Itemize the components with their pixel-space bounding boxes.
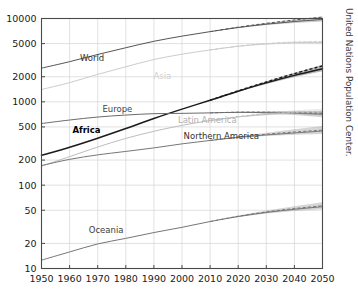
credit-label: United Nations Population Center. <box>344 8 354 157</box>
series-label-africa: Africa <box>72 125 100 135</box>
x-axis-tick-label: 2010 <box>198 273 222 284</box>
y-axis-tick-label: 200 <box>18 154 36 165</box>
series-label-northern-america: Northern America <box>184 131 260 141</box>
y-axis-tick-label: 2000 <box>12 71 36 82</box>
source-credit: United Nations Population Center. <box>344 8 354 157</box>
population-log-chart: 10000500020001000500200100502010 1950196… <box>0 0 358 304</box>
y-axis-tick-label: 20 <box>24 238 36 249</box>
x-axis-tick-label: 1980 <box>114 273 138 284</box>
series-label-europe: Europe <box>102 104 132 114</box>
y-axis-tick-label: 50 <box>24 205 36 216</box>
y-axis-tick-label: 1000 <box>12 96 36 107</box>
y-axis-tick-label: 100 <box>18 180 36 191</box>
x-axis-tick-label: 2020 <box>226 273 250 284</box>
x-axis-tick-label: 1960 <box>58 273 82 284</box>
x-axis-tick-label: 2040 <box>282 273 306 284</box>
series-label-latin-america: Latin America <box>178 115 237 125</box>
series-label-world: World <box>80 53 104 63</box>
y-axis-tick-label: 5000 <box>12 38 36 49</box>
x-axis-tick-label: 1990 <box>142 273 166 284</box>
x-axis-tick-label: 2000 <box>170 273 194 284</box>
x-axis-tick-label: 1950 <box>29 273 53 284</box>
series-label-oceania: Oceania <box>89 225 124 235</box>
series-label-asia: Asia <box>153 71 171 81</box>
y-axis-tick-label: 500 <box>18 121 36 132</box>
x-axis-tick-label: 1970 <box>86 273 110 284</box>
x-axis-tick-label: 2030 <box>254 273 278 284</box>
y-axis-tick-label: 10000 <box>6 13 36 24</box>
x-axis-tick-label: 2050 <box>310 273 334 284</box>
